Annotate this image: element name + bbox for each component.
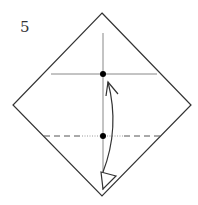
paper-outline bbox=[13, 13, 191, 196]
reference-point-bottom bbox=[100, 133, 106, 139]
reference-point-top bbox=[100, 71, 106, 77]
origami-diagram bbox=[0, 0, 198, 205]
